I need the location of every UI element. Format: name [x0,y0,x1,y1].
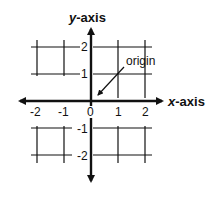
y-axis-label: y-axis [68,10,106,25]
svg-text:1: 1 [81,67,88,81]
svg-text:2: 2 [142,105,149,119]
x-tick-labels: -2 -1 0 1 2 [30,105,149,119]
x-axis-label: x-axis [167,94,205,109]
origin-pointer-arrow [98,67,124,95]
svg-text:-2: -2 [77,149,88,163]
svg-text:-1: -1 [77,122,88,136]
svg-text:0: 0 [87,105,94,119]
coordinate-plane: y-axis x-axis origin -2 -1 0 1 2 2 1 -1 … [0,0,223,197]
svg-text:-2: -2 [30,105,41,119]
origin-label: origin [126,54,155,68]
svg-text:1: 1 [115,105,122,119]
svg-text:-1: -1 [58,105,69,119]
svg-text:2: 2 [81,40,88,54]
